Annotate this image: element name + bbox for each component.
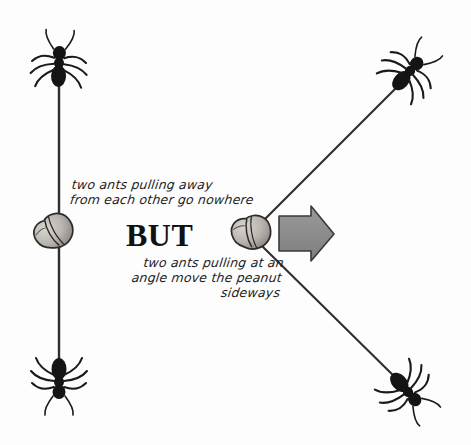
ant-top-right	[373, 28, 453, 108]
ant-top-left	[30, 29, 88, 88]
caption-left-line-1: two ants pulling away	[71, 177, 257, 192]
caption-right: two ants pulling at an angle move the pe…	[119, 255, 285, 300]
motion-arrow	[279, 206, 334, 261]
ant-bottom-left	[31, 358, 87, 415]
caption-right-line-3: sideways	[119, 285, 281, 300]
ant-bottom-right	[371, 355, 451, 435]
caption-right-line-2: angle move the peanut	[121, 270, 283, 285]
peanut-left	[29, 208, 79, 256]
illustration-canvas: two ants pulling away from each other go…	[0, 0, 471, 445]
caption-left-line-2: from each other go nowhere	[69, 192, 255, 207]
emphasis-word: BUT	[126, 218, 193, 252]
caption-left: two ants pulling away from each other go…	[69, 177, 256, 207]
diagram-artwork	[0, 0, 471, 445]
peanut-right	[230, 213, 273, 251]
caption-right-line-1: two ants pulling at an	[123, 255, 285, 270]
rope-upper-diagonal	[262, 80, 404, 222]
